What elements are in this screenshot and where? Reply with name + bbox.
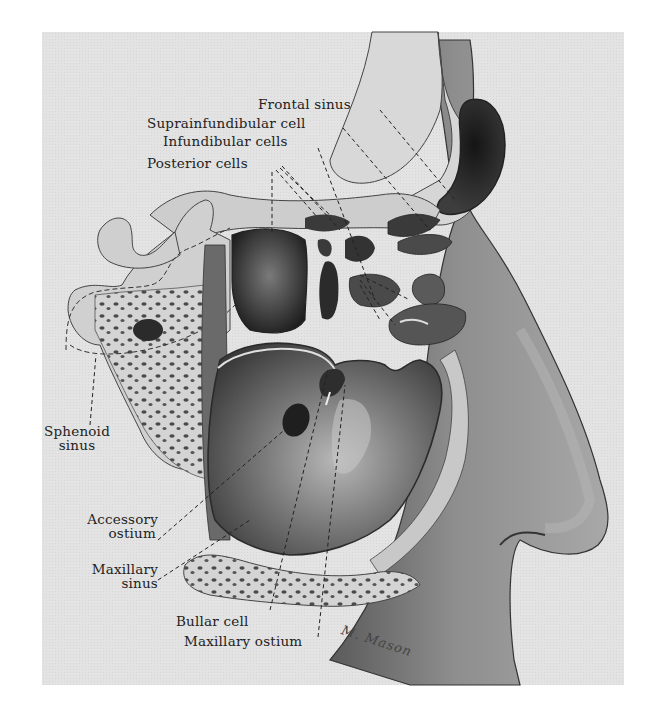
label-maxillary-line1: Maxillary <box>58 562 158 576</box>
label-maxillary-sinus: Maxillary sinus <box>58 562 158 590</box>
label-maxillary-ostium: Maxillary ostium <box>184 634 302 648</box>
posterior-ethmoid-cavity <box>232 229 307 333</box>
label-accessory-line1: Accessory <box>58 512 158 526</box>
label-posterior-cells: Posterior cells <box>147 156 248 170</box>
label-frontal-sinus: Frontal sinus <box>258 97 351 111</box>
label-accessory-ostium: Accessory ostium <box>58 512 158 540</box>
label-sphenoid-line2: sinus <box>42 438 112 452</box>
label-suprainfundibular-cell: Suprainfundibular cell <box>147 116 305 130</box>
label-accessory-line2: ostium <box>58 526 158 540</box>
label-sphenoid-line1: Sphenoid <box>42 424 112 438</box>
label-infundibular-cells: Infundibular cells <box>163 134 288 148</box>
label-bullar-cell: Bullar cell <box>176 614 248 628</box>
label-maxillary-line2: sinus <box>58 576 158 590</box>
label-sphenoid-sinus: Sphenoid sinus <box>42 424 112 452</box>
